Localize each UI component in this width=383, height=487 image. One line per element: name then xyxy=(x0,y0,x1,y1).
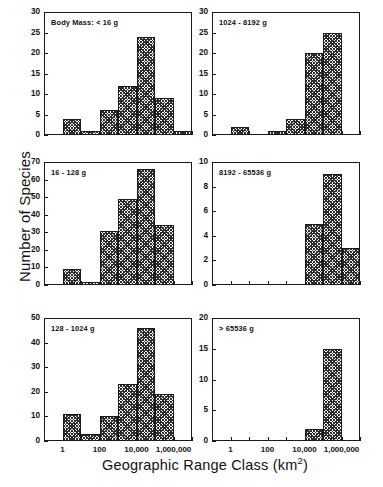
bar xyxy=(323,349,342,441)
x-tick xyxy=(231,437,232,441)
bar xyxy=(63,119,82,135)
y-tick xyxy=(44,416,48,417)
y-tick xyxy=(44,392,48,393)
bar-slot xyxy=(155,318,174,441)
y-tick xyxy=(44,180,48,181)
bar-slot xyxy=(81,318,100,441)
bar-slot xyxy=(249,318,268,441)
y-tick xyxy=(212,12,216,13)
x-tick xyxy=(360,437,361,441)
bar xyxy=(100,110,119,135)
bar xyxy=(118,384,137,441)
panel-lt16: Body Mass: < 16 g051015202530 xyxy=(44,12,192,135)
x-tick xyxy=(323,437,324,441)
panel-title-lt16: Body Mass: < 16 g xyxy=(51,18,118,27)
x-tick xyxy=(305,281,306,285)
bar-slot xyxy=(323,318,342,441)
x-tick xyxy=(174,281,175,285)
y-tick-label: 30 xyxy=(17,362,40,371)
y-tick-label: 40 xyxy=(17,338,40,347)
bar-slot xyxy=(100,162,119,285)
x-tick xyxy=(342,281,343,285)
bar-slot xyxy=(286,162,305,285)
bar xyxy=(118,199,137,285)
bar-slot xyxy=(231,12,250,135)
y-tick xyxy=(212,33,216,34)
y-tick xyxy=(212,115,216,116)
bar-slot xyxy=(342,318,361,441)
x-tick xyxy=(212,281,213,285)
bar xyxy=(100,231,119,285)
x-tick xyxy=(118,281,119,285)
y-tick xyxy=(212,285,216,286)
y-tick-label: 15 xyxy=(185,344,208,353)
bar-slot xyxy=(100,318,119,441)
bar-slot xyxy=(63,12,82,135)
y-tick-label: 20 xyxy=(17,48,40,57)
y-tick xyxy=(44,33,48,34)
x-tick xyxy=(268,437,269,441)
y-tick-label: 50 xyxy=(17,313,40,322)
y-tick xyxy=(212,260,216,261)
y-tick xyxy=(44,318,48,319)
x-tick xyxy=(155,131,156,135)
y-tick-label: 10 xyxy=(17,411,40,420)
x-tick xyxy=(44,437,45,441)
x-tick xyxy=(118,437,119,441)
x-tick xyxy=(100,131,101,135)
x-tick xyxy=(231,131,232,135)
bar-slot xyxy=(249,12,268,135)
x-tick xyxy=(137,131,138,135)
bar-slot xyxy=(155,162,174,285)
y-tick xyxy=(212,410,216,411)
bar xyxy=(63,269,82,285)
y-tick-label: 15 xyxy=(185,69,208,78)
y-tick xyxy=(44,115,48,116)
panel-16-128: 16 - 128 g010203040506070 xyxy=(44,162,192,285)
bar xyxy=(137,37,156,135)
x-tick xyxy=(231,281,232,285)
y-tick xyxy=(212,74,216,75)
x-tick xyxy=(44,281,45,285)
bar-slot xyxy=(342,162,361,285)
bar-slot xyxy=(305,318,324,441)
bar xyxy=(81,131,100,135)
bar-slot xyxy=(63,318,82,441)
x-tick xyxy=(100,281,101,285)
x-tick xyxy=(360,131,361,135)
y-tick-label: 15 xyxy=(17,69,40,78)
x-tick xyxy=(44,131,45,135)
panel-gt65536: > 65536 g05101520110010,0001,000,000 xyxy=(212,318,360,441)
bar-slot xyxy=(342,12,361,135)
x-tick xyxy=(100,437,101,441)
y-tick-label: 5 xyxy=(17,110,40,119)
x-tick xyxy=(155,281,156,285)
x-tick xyxy=(81,281,82,285)
y-tick-label: 0 xyxy=(17,436,40,445)
x-tick xyxy=(342,131,343,135)
y-tick xyxy=(44,285,48,286)
y-tick xyxy=(44,197,48,198)
x-tick xyxy=(137,437,138,441)
x-tick xyxy=(174,131,175,135)
panel-1024-8192: 1024 - 8192 g051015202530 xyxy=(212,12,360,135)
x-tick xyxy=(63,437,64,441)
y-tick-label: 0 xyxy=(17,130,40,139)
panel-title-gt65536: > 65536 g xyxy=(219,324,254,333)
x-tick xyxy=(81,437,82,441)
x-tick xyxy=(286,281,287,285)
y-tick xyxy=(44,53,48,54)
bar-slot xyxy=(268,318,287,441)
y-tick-label: 20 xyxy=(185,313,208,322)
bar xyxy=(155,98,174,135)
y-tick-label: 10 xyxy=(185,375,208,384)
y-tick xyxy=(212,236,216,237)
x-tick xyxy=(286,437,287,441)
bar xyxy=(81,434,100,441)
x-tick xyxy=(342,437,343,441)
bar-series-16-128 xyxy=(44,162,192,285)
y-tick xyxy=(212,318,216,319)
y-tick-label: 25 xyxy=(17,28,40,37)
y-tick xyxy=(212,349,216,350)
y-tick-label: 60 xyxy=(17,175,40,184)
